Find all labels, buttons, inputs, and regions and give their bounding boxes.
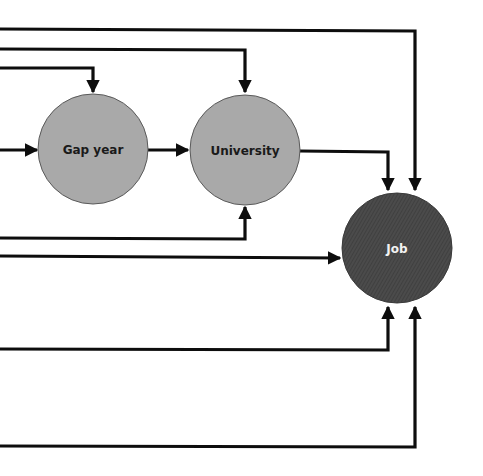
node-label-job: Job [385, 242, 408, 256]
edge-university-to-job [300, 151, 388, 190]
edge-to-job-bottom-right [0, 307, 415, 447]
node-job: Job [342, 193, 452, 303]
edge-to-university-top [0, 49, 245, 92]
node-label-university: University [210, 144, 279, 158]
edge-to-job-left [0, 256, 340, 258]
node-university: University [190, 95, 300, 205]
edge-to-gap-year-top [0, 68, 93, 92]
edge-to-university-bottom [0, 207, 245, 239]
node-gap-year: Gap year [38, 94, 148, 204]
edge-to-job-bottom-left [0, 307, 388, 350]
flow-diagram: Gap year University Job [0, 0, 483, 476]
node-label-gap-year: Gap year [63, 143, 124, 157]
